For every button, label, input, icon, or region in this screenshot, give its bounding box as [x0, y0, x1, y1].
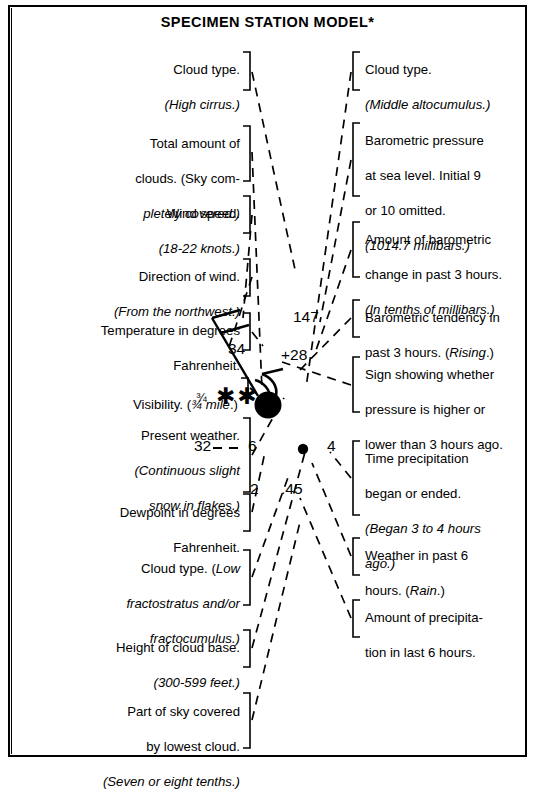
leader-cloud-type-high: [252, 72, 296, 274]
bracket-wind-direction: [243, 259, 250, 296]
leader-cloud-type-middle: [306, 72, 351, 388]
value-visibility: ¾: [196, 390, 207, 405]
label-part-of-sky-covered: Part of sky covered by lowest cloud. (Se…: [20, 686, 240, 793]
value-pressure-change: +28: [281, 346, 307, 364]
label-line: fractostratus and/or: [30, 595, 240, 612]
bracket-cloud-type-low: [243, 550, 250, 605]
label-line: clouds. (Sky com-: [40, 170, 240, 187]
label-line: by lowest cloud.: [20, 738, 240, 755]
label-line: pressure is higher or: [365, 401, 535, 418]
label-line: Fahrenheit.: [22, 357, 240, 374]
label-line: (Middle altocumulus.): [365, 96, 535, 113]
label-line: Temperature in degrees: [22, 322, 240, 339]
label-line: Direction of wind.: [22, 268, 240, 285]
bracket-weather-past-6: [353, 538, 360, 575]
bracket-cloud-type-high: [243, 52, 250, 90]
bracket-pressure-sign: [353, 357, 360, 412]
leader-time-precipitation: [330, 452, 351, 478]
bracket-barometric-change: [353, 222, 360, 277]
leader-precipitation-amount: [300, 498, 351, 618]
bracket-barometric-pressure: [353, 123, 360, 196]
label-line: Part of sky covered: [20, 703, 240, 720]
leader-barometric-change: [314, 250, 351, 356]
leader-temperature: [252, 332, 263, 346]
past-weather-rain-dot: [298, 444, 308, 454]
label-line: (High cirrus.): [40, 96, 240, 113]
label-line: Weather in past 6: [365, 547, 535, 564]
bracket-barometric-tendency: [353, 300, 360, 337]
label-line: began or ended.: [365, 485, 535, 502]
value-barometric-pressure: 147: [293, 308, 319, 326]
bracket-dewpoint: [243, 494, 250, 531]
bracket-cloud-base: [243, 630, 250, 667]
bracket-wind-speed: [243, 196, 250, 233]
label-line: Amount of precipita-: [365, 609, 535, 626]
value-cloud-base-height: 6: [248, 437, 257, 455]
bracket-total-clouds: [243, 126, 250, 181]
bracket-cloud-type-middle: [353, 52, 360, 90]
label-line: Cloud type. (Low: [30, 560, 240, 577]
bracket-precipitation-amount: [353, 600, 360, 637]
bracket-sky-covered: [243, 693, 250, 748]
label-line: Barometric pressure: [365, 132, 535, 149]
present-weather-snow-symbol: ✱✱: [216, 385, 259, 408]
label-line: Cloud type.: [40, 61, 240, 78]
label-line: (Continuous slight: [40, 462, 240, 479]
label-line: Barometric tendency in: [365, 309, 535, 326]
value-time-precipitation: 4: [327, 437, 336, 455]
label-line: (Seven or eight tenths.): [20, 773, 240, 790]
label-line: Amount of barometric: [365, 231, 535, 248]
label-line: at sea level. Initial 9: [365, 167, 535, 184]
label-line: change in past 3 hours.: [365, 266, 535, 283]
leader-pressure-sign: [282, 362, 351, 385]
label-line: Cloud type.: [365, 61, 535, 78]
label-line: tion in last 6 hours.: [365, 644, 535, 661]
leader-total-clouds: [252, 152, 262, 390]
value-sky-cover-lowest: 2: [250, 480, 259, 498]
tendency-rise-line: [262, 369, 283, 374]
label-line: Height of cloud base.: [30, 639, 240, 656]
label-line: Dewpoint in degrees: [30, 504, 240, 521]
bracket-present-weather: [243, 418, 250, 492]
value-temperature: 34: [228, 340, 245, 358]
leader-sky-covered: [252, 522, 300, 720]
label-line: Time precipitation: [365, 450, 535, 467]
label-line: Sign showing whether: [365, 366, 535, 383]
bracket-time-precipitation: [353, 441, 360, 515]
label-line: Total amount of: [40, 135, 240, 152]
label-amount-of-precipitation: Amount of precipita- tion in last 6 hour…: [365, 592, 535, 679]
label-line: Wind speed.: [40, 205, 240, 222]
value-dewpoint: 32: [194, 437, 211, 455]
value-precipitation-amount: .45: [281, 480, 303, 498]
